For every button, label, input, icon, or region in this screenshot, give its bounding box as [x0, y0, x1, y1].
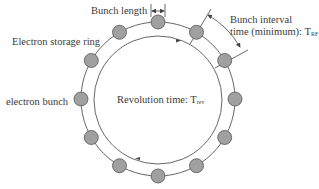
- bunch-interval-line2: time (minimum): TRF: [230, 26, 318, 40]
- electron-bunch: [84, 131, 98, 145]
- electron-bunch: [84, 54, 98, 68]
- bunch-length-label: Bunch length: [91, 5, 147, 17]
- revolution-time-text: Revolution time: T: [117, 94, 197, 105]
- electron-bunch: [151, 15, 165, 29]
- electron-bunch: [74, 92, 88, 106]
- electron-bunch-label: electron bunch: [6, 96, 68, 108]
- electron-bunch: [151, 169, 165, 183]
- bunch-interval-line1: Bunch interval: [230, 14, 318, 26]
- electron-bunch: [113, 159, 127, 173]
- electron-bunch: [218, 54, 232, 68]
- electron-bunch: [190, 25, 204, 39]
- storage-ring-diagram: Bunch length Electron storage ring elect…: [0, 0, 319, 189]
- revolution-time-label: Revolution time: Trev: [117, 94, 204, 108]
- electron-bunch: [190, 159, 204, 173]
- bunch-interval-subscript: RF: [311, 31, 318, 37]
- bunch-interval-line2-text: time (minimum): T: [230, 26, 311, 37]
- bunch-interval-label: Bunch interval time (minimum): TRF: [230, 14, 318, 40]
- electron-bunch: [228, 92, 242, 106]
- revolution-time-subscript: rev: [197, 99, 205, 105]
- electron-bunch: [113, 25, 127, 39]
- storage-ring-label: Electron storage ring: [12, 36, 100, 48]
- electron-bunch: [218, 131, 232, 145]
